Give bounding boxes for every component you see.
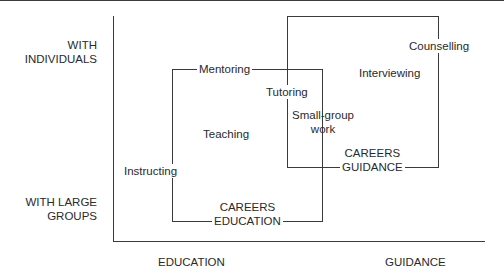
careers-education-line1: CAREERS (214, 200, 281, 214)
label-counselling: Counselling (407, 39, 471, 53)
x-axis (113, 241, 485, 242)
label-careers-guidance: CAREERS GUIDANCE (340, 146, 405, 174)
label-small-group-work: Small-group work (290, 108, 356, 136)
guidance-box-top (287, 16, 439, 17)
y-label-individuals: WITH INDIVIDUALS (25, 38, 97, 66)
careers-education-line2: EDUCATION (214, 214, 281, 228)
label-interviewing: Interviewing (357, 66, 422, 80)
y-axis (113, 16, 114, 242)
label-careers-education: CAREERS EDUCATION (212, 200, 283, 228)
x-label-guidance: GUIDANCE (385, 255, 446, 269)
y-label-large-groups-line2: GROUPS (25, 209, 97, 223)
y-label-large-groups-line1: WITH LARGE (25, 195, 97, 209)
y-label-individuals-line1: WITH (25, 38, 97, 52)
label-tutoring: Tutoring (264, 85, 310, 99)
y-label-individuals-line2: INDIVIDUALS (25, 52, 97, 66)
label-mentoring: Mentoring (197, 62, 252, 76)
education-box-right (322, 69, 323, 222)
label-small-group-line2: work (292, 122, 354, 136)
x-label-education: EDUCATION (158, 255, 225, 269)
careers-guidance-line2: GUIDANCE (342, 160, 403, 174)
top-rule (0, 0, 504, 1)
label-instructing: Instructing (122, 164, 179, 178)
label-small-group-line1: Small-group (292, 108, 354, 122)
y-label-large-groups: WITH LARGE GROUPS (25, 195, 97, 223)
careers-guidance-line1: CAREERS (342, 146, 403, 160)
education-box-left (172, 69, 173, 222)
label-teaching: Teaching (201, 127, 251, 141)
